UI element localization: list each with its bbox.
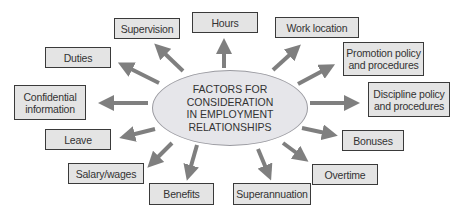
employment-factors-diagram: FACTORS FOR CONSIDERATION IN EMPLOYMENT …: [0, 0, 457, 214]
arrow-promotion: [298, 68, 328, 84]
factor-bonuses: Bonuses: [342, 130, 404, 151]
center-line: IN EMPLOYMENT: [187, 108, 274, 121]
factor-discipline: Discipline policyand procedures: [368, 82, 450, 117]
arrow-salary: [153, 143, 172, 162]
arrow-bonuses: [302, 128, 330, 134]
factor-supervision: Supervision: [114, 18, 180, 39]
arrow-overtime: [283, 143, 302, 157]
arrow-supervision: [160, 49, 183, 71]
arrow-superannuation: [258, 149, 268, 173]
factor-benefits: Benefits: [149, 183, 214, 205]
arrow-work-location: [273, 50, 295, 70]
factor-hours: Hours: [192, 12, 258, 33]
factor-salary-wages: Salary/wages: [68, 163, 144, 184]
center-line: RELATIONSHIPS: [187, 121, 274, 134]
center-line: CONSIDERATION: [187, 96, 274, 109]
center-ellipse: FACTORS FOR CONSIDERATION IN EMPLOYMENT …: [152, 70, 308, 146]
factor-confidential-information: Confidentialinformation: [14, 85, 86, 120]
factor-superannuation: Superannuation: [233, 183, 311, 205]
factor-leave: Leave: [45, 129, 111, 150]
factor-overtime: Overtime: [312, 164, 378, 185]
center-line: FACTORS FOR: [187, 83, 274, 96]
factor-work-location: Work location: [275, 17, 359, 38]
factor-promotion: Promotion policyand procedures: [343, 42, 424, 76]
arrow-leave: [127, 129, 155, 136]
arrow-duties: [125, 66, 159, 83]
factor-duties: Duties: [45, 47, 111, 68]
arrow-benefits: [189, 145, 197, 173]
